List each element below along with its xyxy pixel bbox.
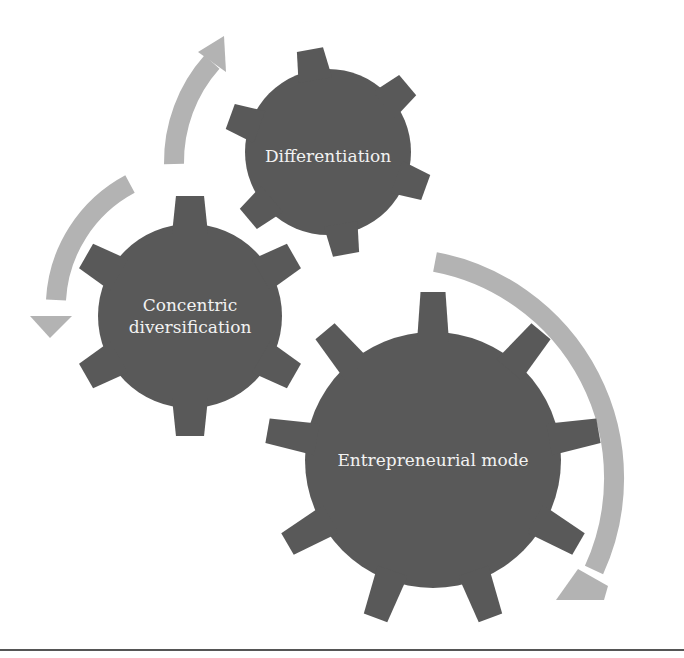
gear-body: [98, 224, 282, 408]
bottom-rule: [0, 649, 684, 651]
gear-diagram: Differentiation Concentric diversificati…: [0, 0, 684, 658]
gear-tooth: [458, 565, 505, 623]
gear-tooth: [293, 47, 332, 83]
gear-tooth: [324, 221, 363, 257]
gear-entrepreneurial: [265, 292, 601, 623]
gear-tooth: [361, 565, 408, 623]
gear-tooth: [417, 292, 449, 342]
diagram-canvas: [0, 0, 684, 658]
gear-tooth: [172, 196, 208, 234]
gear-tooth: [172, 398, 208, 436]
gear-differentiation: [224, 47, 431, 258]
arrow-up-to-differentiation: [174, 36, 226, 164]
gears: [77, 47, 601, 624]
gear-concentric: [77, 196, 303, 436]
